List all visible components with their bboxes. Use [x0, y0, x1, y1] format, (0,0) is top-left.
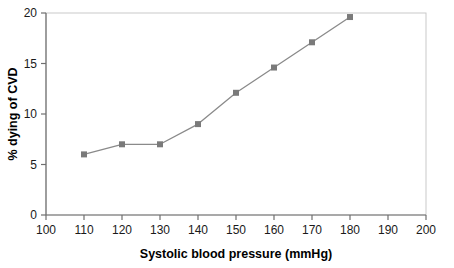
x-tick-label-120: 120 — [112, 223, 132, 237]
data-point-160 — [271, 65, 277, 71]
data-point-140 — [195, 121, 201, 127]
data-point-120 — [119, 141, 125, 147]
y-tick-label-5: 5 — [30, 158, 37, 172]
x-tick-label-140: 140 — [188, 223, 208, 237]
x-tick-label-180: 180 — [340, 223, 360, 237]
x-axis-title: Systolic blood pressure (mmHg) — [140, 247, 332, 261]
chart-canvas: 100110120130140150160170180190200 051015… — [0, 0, 454, 268]
x-tick-label-160: 160 — [264, 223, 284, 237]
x-tick-label-110: 110 — [74, 223, 93, 237]
data-point-130 — [157, 141, 163, 147]
y-tick-label-10: 10 — [24, 107, 38, 121]
x-tick-label-200: 200 — [416, 223, 436, 237]
x-tick-label-100: 100 — [36, 223, 56, 237]
y-tick-label-0: 0 — [30, 208, 37, 222]
y-tick-label-15: 15 — [24, 57, 38, 71]
x-tick-label-150: 150 — [226, 223, 246, 237]
data-point-170 — [309, 39, 315, 45]
cvd-mortality-line-chart: 100110120130140150160170180190200 051015… — [0, 0, 454, 268]
y-tick-label-20: 20 — [24, 6, 38, 20]
x-tick-label-130: 130 — [150, 223, 170, 237]
data-point-150 — [233, 90, 239, 96]
x-tick-label-190: 190 — [378, 223, 398, 237]
x-tick-label-170: 170 — [302, 223, 322, 237]
data-point-110 — [81, 151, 87, 157]
data-point-180 — [347, 14, 353, 20]
y-axis-title: % dying of CVD — [6, 67, 20, 160]
